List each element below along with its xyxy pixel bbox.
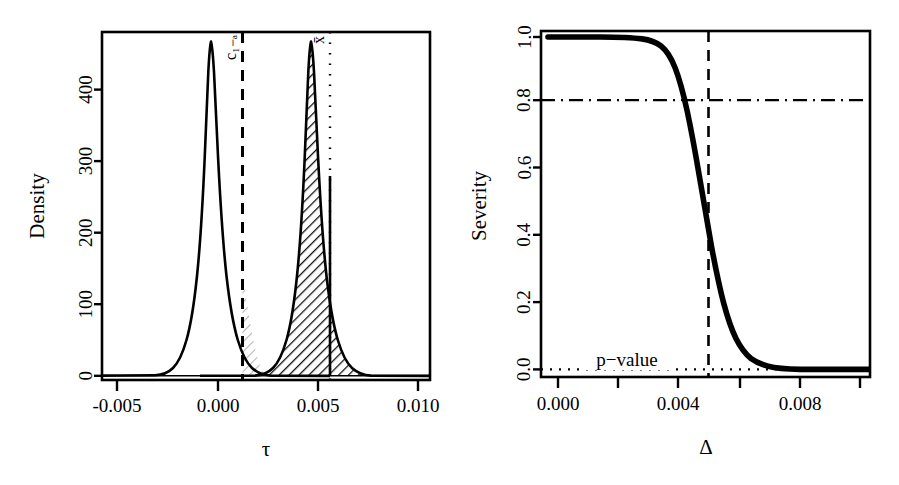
density-x-axis: -0.005 0.000 0.005 0.010	[92, 380, 439, 416]
density-y-tick-100: 100	[76, 290, 97, 319]
p-value-label: p−value	[596, 349, 657, 370]
severity-x-axis-title: Δ	[699, 435, 713, 459]
density-x-tick-0010: 0.010	[397, 395, 440, 416]
density-x-tick-0000: 0.000	[197, 395, 240, 416]
severity-y-tick-10: 1.0	[514, 25, 535, 49]
severity-plot-svg: 0.0 0.2 0.4 0.6 0.8 1.0 0.000 0.004 0.00…	[450, 0, 899, 485]
severity-panel: 0.0 0.2 0.4 0.6 0.8 1.0 0.000 0.004 0.00…	[450, 0, 899, 485]
severity-x-tick-0004: 0.004	[657, 393, 700, 414]
density-panel: 0 100 200 300 400 -0.005 0.000 0.005 0.0…	[0, 0, 450, 485]
severity-y-tick-02: 0.2	[514, 290, 535, 314]
severity-y-axis: 0.0 0.2 0.4 0.6 0.8 1.0	[514, 25, 542, 381]
density-x-tick-neg0005: -0.005	[92, 395, 141, 416]
severity-y-tick-06: 0.6	[514, 156, 535, 180]
density-plot-box	[102, 32, 430, 380]
severity-y-tick-04: 0.4	[514, 222, 535, 246]
severity-y-axis-title: Severity	[467, 171, 491, 241]
density-x-tick-0005: 0.005	[297, 395, 340, 416]
density-y-axis: 0 100 200 300 400	[76, 75, 103, 380]
severity-figure: 0 100 200 300 400 -0.005 0.000 0.005 0.0…	[0, 0, 899, 485]
severity-x-tick-0000: 0.000	[537, 393, 580, 414]
density-plot-svg: 0 100 200 300 400 -0.005 0.000 0.005 0.0…	[0, 0, 450, 485]
severity-y-tick-00: 0.0	[514, 358, 535, 382]
density-y-tick-300: 300	[76, 147, 97, 176]
density-y-axis-title: Density	[25, 173, 49, 239]
density-y-tick-200: 200	[76, 218, 97, 247]
density-y-tick-400: 400	[76, 75, 97, 104]
density-curves-group	[102, 32, 430, 380]
severity-x-axis: 0.000 0.004 0.008	[537, 377, 860, 414]
density-x-axis-title: τ	[262, 437, 270, 461]
severity-curve-group	[541, 31, 870, 377]
critical-value-label: c₁₋ₐ	[222, 34, 239, 60]
observed-mean-label: x̄	[310, 36, 327, 44]
density-y-tick-0: 0	[76, 371, 97, 381]
severity-region	[255, 42, 430, 376]
severity-y-tick-08: 0.8	[514, 88, 535, 112]
severity-x-tick-0008: 0.008	[779, 393, 822, 414]
